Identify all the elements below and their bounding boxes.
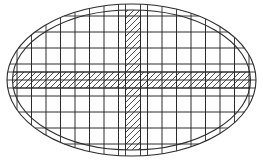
hatched-cross <box>0 0 263 163</box>
diagram-canvas <box>0 0 263 163</box>
elliptical-grid-diagram <box>0 0 263 163</box>
vertical-hatched-band <box>126 0 141 163</box>
